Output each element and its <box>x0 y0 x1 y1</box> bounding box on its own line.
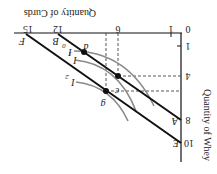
label-a: A <box>171 116 179 127</box>
y-tick-labels: 1 4 8 10 <box>184 41 194 149</box>
svg-text:2: 2 <box>65 73 69 81</box>
point-g <box>103 88 109 94</box>
point-c <box>115 73 121 79</box>
axes <box>14 33 182 162</box>
point-label-g: g <box>101 99 106 110</box>
y-tick-8: 8 <box>186 115 191 126</box>
indifference-curves <box>74 51 154 121</box>
x-tick-0: 0 <box>186 24 191 35</box>
y-tick-10: 10 <box>184 138 194 149</box>
y-tick-1: 1 <box>186 41 191 52</box>
x-tick-6: 6 <box>116 24 121 35</box>
svg-text:I: I <box>71 77 76 88</box>
label-f: F <box>18 36 26 47</box>
x-tick-15: 15 <box>23 24 33 35</box>
x-tick-1: 1 <box>169 24 174 35</box>
ic-label-i2: I 2 <box>65 73 76 88</box>
svg-text:0: 0 <box>62 42 66 50</box>
svg-text:I: I <box>73 55 78 66</box>
x-tick-12: 12 <box>53 24 63 35</box>
svg-text:1: 1 <box>68 50 72 58</box>
point-label-c: c <box>114 86 119 97</box>
indifference-curve-i0 <box>74 51 154 106</box>
budget-line-ef <box>26 34 181 143</box>
x-axis-title: Quantity of Curds <box>24 8 96 19</box>
y-tick-4: 4 <box>186 71 191 82</box>
label-b: B <box>53 36 59 47</box>
label-e: E <box>173 138 180 149</box>
budget-lines <box>26 34 181 143</box>
indifference-curve-diagram: 0 1 6 12 15 Quantity of Curds 1 4 8 10 Q… <box>0 0 217 174</box>
y-axis-title: Quantity of Whey <box>202 89 213 161</box>
